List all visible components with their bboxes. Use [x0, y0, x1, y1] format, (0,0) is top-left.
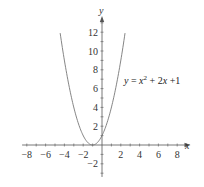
x-tick-label: 8: [175, 149, 180, 160]
x-tick-label: 4: [137, 149, 142, 160]
y-tick-label: 10: [88, 46, 98, 57]
y-axis-label: y: [98, 5, 104, 16]
x-tick-label: −6: [40, 149, 51, 160]
parabola-chart: −8−6−4−22468−224681012 x y y = x2 + 2x +…: [0, 0, 204, 187]
equation-annotation: y = x2 + 2x +1: [123, 74, 180, 86]
x-tick-label: 6: [156, 149, 161, 160]
y-tick-label: 6: [93, 83, 98, 94]
x-tick-label: −8: [21, 149, 32, 160]
y-tick-label: 2: [93, 121, 98, 132]
y-tick-label: 8: [93, 64, 98, 75]
y-tick-label: −2: [87, 158, 98, 169]
x-tick-label: 2: [118, 149, 123, 160]
y-tick-label: 12: [88, 27, 98, 38]
x-tick-label: −4: [59, 149, 70, 160]
y-tick-label: 4: [93, 102, 98, 113]
x-axis-label: x: [184, 140, 190, 151]
y-axis-arrow-icon: [100, 16, 104, 22]
